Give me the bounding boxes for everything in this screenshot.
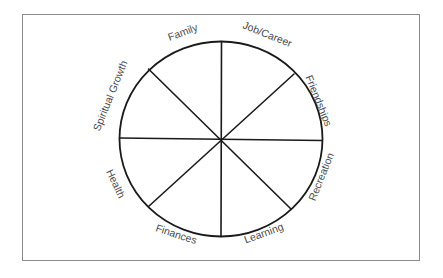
wheel-of-life-diagram: Family Job/Career Friendships Recreation… [0,0,443,278]
